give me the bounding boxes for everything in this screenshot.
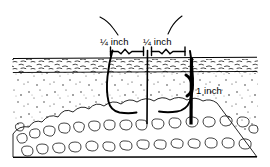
leader-line-left: [100, 17, 118, 35]
leader-lines: [100, 16, 182, 35]
label-depth: 1 inch: [196, 85, 222, 96]
width-dimension-right: [152, 47, 186, 56]
thatch-sod-layer: [12, 59, 258, 73]
soil-cross-section-diagram: ¼ inch ¼ inch 1 inch: [0, 0, 270, 167]
label-left-width: ¼ inch: [100, 36, 129, 47]
leader-line-right: [168, 16, 182, 34]
ground-surface-line: [13, 57, 257, 58]
label-right-width: ¼ inch: [143, 36, 172, 47]
width-dimension-left: [111, 47, 144, 56]
diagram-canvas: [0, 0, 270, 167]
